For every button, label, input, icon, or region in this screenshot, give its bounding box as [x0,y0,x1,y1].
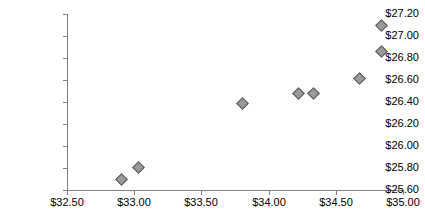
data-point [353,72,366,85]
data-point [132,161,145,174]
data-point [236,97,249,110]
data-point [376,19,389,32]
data-point [307,87,320,100]
data-point [292,87,305,100]
data-point [376,46,389,59]
data-point [115,173,128,186]
